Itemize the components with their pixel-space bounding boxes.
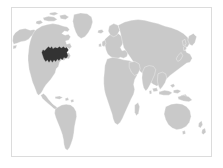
- region-tasmania: [182, 131, 185, 135]
- world-map-widget[interactable]: [0, 0, 223, 168]
- map-frame: [11, 7, 212, 157]
- region-sri-lanka: [149, 90, 152, 94]
- world-map-svg[interactable]: [12, 8, 211, 156]
